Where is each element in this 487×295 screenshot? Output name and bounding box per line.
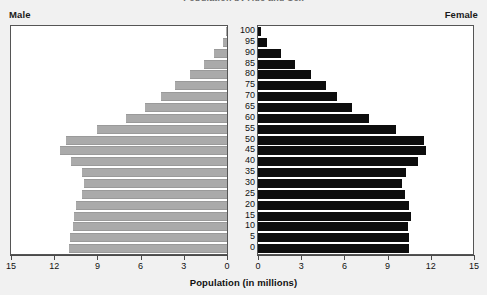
- female-bar-age-75: [258, 81, 326, 90]
- x-tick-6: [141, 255, 142, 260]
- age-tick-20: 20: [245, 200, 255, 209]
- female-bar-age-60: [258, 114, 369, 123]
- age-axis: 1009590858075706560555045403530252015105…: [228, 25, 257, 255]
- female-bar-age-80: [258, 70, 311, 79]
- male-bar-age-80: [190, 70, 227, 79]
- female-bar-age-5: [258, 233, 409, 242]
- female-bar-age-0: [258, 244, 409, 253]
- male-bar-age-40: [71, 157, 227, 166]
- x-tick-15: [11, 255, 12, 260]
- x-axis-title: Population (in millions): [0, 277, 487, 288]
- female-plot-panel: [257, 25, 474, 255]
- female-bar-age-95: [258, 38, 267, 47]
- male-axis-line: [10, 255, 228, 256]
- age-tick-95: 95: [245, 37, 255, 46]
- x-tick-9: [97, 255, 98, 260]
- female-bar-age-40: [258, 157, 418, 166]
- age-tick-100: 100: [240, 26, 255, 35]
- female-bar-age-25: [258, 190, 405, 199]
- male-legend-label: Male: [9, 9, 31, 20]
- age-tick-70: 70: [245, 91, 255, 100]
- male-bar-age-15: [74, 212, 227, 221]
- age-tick-50: 50: [245, 135, 255, 144]
- female-bar-age-90: [258, 49, 281, 58]
- x-tick-3: [184, 255, 185, 260]
- male-x-tick-labels: 15129630: [10, 261, 228, 273]
- male-bar-age-70: [161, 92, 227, 101]
- female-bar-age-20: [258, 201, 409, 210]
- female-bar-age-85: [258, 60, 295, 69]
- age-tick-35: 35: [245, 167, 255, 176]
- male-bar-age-20: [76, 201, 227, 210]
- x-tick-label-6: 6: [342, 261, 347, 271]
- x-tick-12: [54, 255, 55, 260]
- age-tick-80: 80: [245, 69, 255, 78]
- x-tick-label-15: 15: [469, 261, 479, 271]
- male-bar-age-60: [126, 114, 227, 123]
- x-tick-label-15: 15: [6, 261, 16, 271]
- age-tick-55: 55: [245, 124, 255, 133]
- female-bar-age-70: [258, 92, 337, 101]
- female-bar-age-15: [258, 212, 411, 221]
- male-bar-age-85: [204, 60, 227, 69]
- male-bar-age-10: [73, 222, 227, 231]
- age-tick-65: 65: [245, 102, 255, 111]
- x-tick-label-0: 0: [224, 261, 229, 271]
- female-bar-age-55: [258, 125, 396, 134]
- female-bar-age-100: [258, 27, 261, 36]
- x-tick-label-0: 0: [255, 261, 260, 271]
- male-bar-age-5: [70, 233, 227, 242]
- age-tick-75: 75: [245, 80, 255, 89]
- x-tick-label-3: 3: [299, 261, 304, 271]
- age-tick-45: 45: [245, 145, 255, 154]
- male-bar-age-100: [226, 27, 228, 36]
- x-tick-9: [388, 255, 389, 260]
- female-x-tick-labels: 03691215: [257, 261, 474, 273]
- male-bar-age-65: [145, 103, 227, 112]
- x-tick-15: [474, 255, 475, 260]
- female-x-axis: [257, 255, 474, 260]
- x-tick-0: [227, 255, 228, 260]
- female-legend-label: Female: [445, 9, 478, 20]
- male-bar-age-45: [60, 146, 227, 155]
- female-axis-line: [257, 255, 474, 256]
- male-bar-age-35: [82, 168, 227, 177]
- female-bar-age-65: [258, 103, 352, 112]
- age-tick-10: 10: [245, 221, 255, 230]
- x-tick-label-12: 12: [49, 261, 59, 271]
- population-pyramid-chart: Population by Age and Sex Male Female 10…: [0, 0, 487, 295]
- female-bar-age-50: [258, 136, 424, 145]
- age-tick-5: 5: [250, 232, 255, 241]
- male-bar-age-30: [84, 179, 227, 188]
- female-bar-age-10: [258, 222, 408, 231]
- x-tick-12: [431, 255, 432, 260]
- chart-title: Population by Age and Sex: [0, 0, 487, 1]
- male-bar-age-55: [97, 125, 227, 134]
- x-tick-label-3: 3: [181, 261, 186, 271]
- x-tick-label-12: 12: [426, 261, 436, 271]
- male-bar-age-50: [66, 136, 227, 145]
- age-tick-25: 25: [245, 189, 255, 198]
- age-tick-40: 40: [245, 156, 255, 165]
- age-tick-60: 60: [245, 113, 255, 122]
- age-tick-85: 85: [245, 59, 255, 68]
- x-tick-label-9: 9: [385, 261, 390, 271]
- x-tick-0: [258, 255, 259, 260]
- x-tick-label-6: 6: [138, 261, 143, 271]
- male-bar-age-90: [214, 49, 227, 58]
- x-tick-label-9: 9: [95, 261, 100, 271]
- male-x-axis: [10, 255, 228, 260]
- x-tick-6: [344, 255, 345, 260]
- age-tick-15: 15: [245, 211, 255, 220]
- female-bars-group: [258, 26, 473, 254]
- male-bar-age-95: [223, 38, 227, 47]
- male-bar-age-75: [175, 81, 227, 90]
- male-plot-panel: [10, 25, 228, 255]
- female-bar-age-45: [258, 146, 426, 155]
- male-bars-group: [11, 26, 227, 254]
- age-tick-0: 0: [250, 243, 255, 252]
- male-bar-age-0: [69, 244, 227, 253]
- female-bar-age-30: [258, 179, 402, 188]
- female-bar-age-35: [258, 168, 406, 177]
- x-tick-3: [301, 255, 302, 260]
